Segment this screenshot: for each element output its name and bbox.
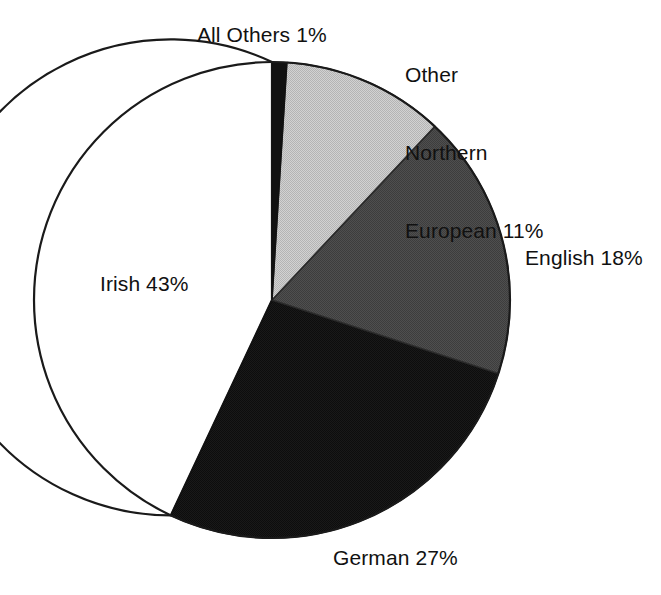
pie-chart-graphic bbox=[0, 0, 661, 595]
pie-label-other-northern-european-line3: European 11% bbox=[405, 218, 544, 244]
pie-label-other-northern-european: Other Northern European 11% bbox=[405, 10, 544, 296]
pie-label-german: German 27% bbox=[333, 545, 458, 571]
pie-label-irish: Irish 43% bbox=[100, 271, 188, 297]
pie-chart-page: All Others 1% Other Northern European 11… bbox=[0, 0, 661, 595]
pie-label-english: English 18% bbox=[525, 245, 643, 271]
pie-label-all-others: All Others 1% bbox=[197, 22, 327, 48]
pie-label-other-northern-european-line1: Other bbox=[405, 62, 544, 88]
pie-label-other-northern-european-line2: Northern bbox=[405, 140, 544, 166]
